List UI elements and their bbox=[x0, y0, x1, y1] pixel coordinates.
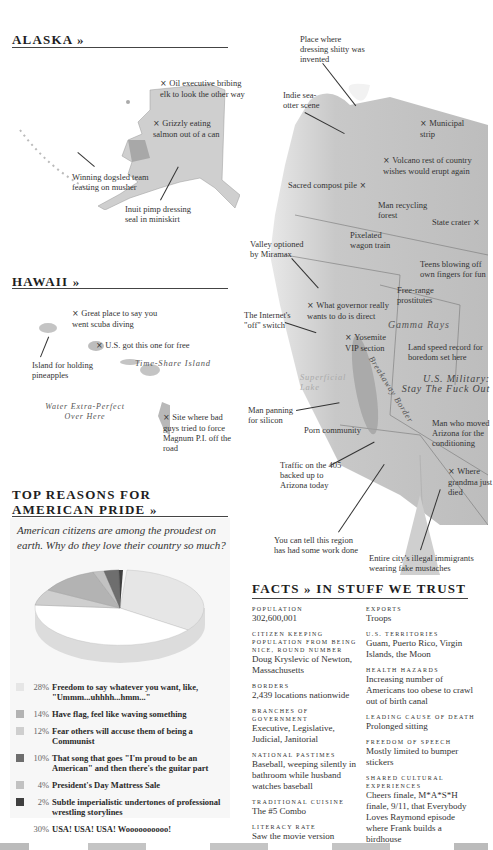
map-label-mustaches: Entire city's illegal immigrants wearing… bbox=[369, 553, 479, 573]
legend-item: 30% USA! USA! USA! Woooooooooo! bbox=[16, 824, 230, 834]
alaska-label-grizzly: × Grizzly eating salmon out of a can bbox=[153, 118, 233, 139]
pride-title-line1: TOP REASONS FOR bbox=[12, 487, 158, 502]
fact-value: Guam, Puerto Rico, Virgin Islands, the M… bbox=[366, 638, 476, 660]
map-label-dressing: Place where dressing shitty was invented bbox=[300, 34, 370, 64]
fact-value: Cheers finale, M*A*S*H finale, 9/11, tha… bbox=[366, 790, 476, 845]
legend-item: 2% Subtle imperialistic undertones of pr… bbox=[16, 797, 230, 817]
map-label-teens: Teens blowing off own fingers for fun bbox=[420, 259, 490, 279]
fact-value: 302,600,001 bbox=[252, 613, 362, 624]
map-label-porn: Porn community bbox=[304, 425, 384, 435]
map-label-wagon: Pixelated wagon train bbox=[350, 230, 400, 250]
legend-swatch bbox=[16, 683, 24, 691]
hawaii-label-pineapples: Island for holding pineapples bbox=[32, 360, 102, 380]
fact-key: U.S. TERRITORIES bbox=[366, 630, 476, 638]
hawaii-italic-timeshare: Time-Share Island bbox=[135, 358, 245, 368]
map-label-work-done: You can tell this region has had some wo… bbox=[274, 535, 364, 555]
legend-item: 14% Have flag, feel like waving somethin… bbox=[16, 709, 230, 719]
legend-text: Subtle imperialistic undertones of profe… bbox=[52, 797, 230, 817]
map-label-internet: The Internet's "off" switch bbox=[244, 310, 304, 330]
fact-value: Increasing number of Americans too obese… bbox=[366, 674, 476, 707]
legend-text: Freedom to say whatever you want, like, … bbox=[52, 682, 230, 702]
page-edge-strip bbox=[0, 843, 488, 850]
legend-item: 28% Freedom to say whatever you want, li… bbox=[16, 682, 230, 702]
legend-text: USA! USA! USA! Woooooooooo! bbox=[52, 824, 171, 834]
fact-value: Mostly limited to bumper stickers bbox=[366, 746, 476, 768]
map-label-sea-otter: Indie sea-otter scene bbox=[283, 90, 323, 110]
map-label-yosemite: × Yosemite VIP section bbox=[345, 332, 400, 353]
fact-value: Troops bbox=[366, 613, 476, 624]
map-italic-gamma: Gamma Rays bbox=[388, 320, 468, 330]
alaska-label-oil: × Oil executive bribing elk to look the … bbox=[160, 78, 250, 99]
legend-text: President's Day Mattress Sale bbox=[52, 780, 160, 790]
map-label-compost: Sacred compost pile × bbox=[288, 180, 398, 191]
fact-value: Baseball, weeping silently in bathroom w… bbox=[252, 759, 362, 792]
legend-item: 4% President's Day Mattress Sale bbox=[16, 780, 230, 790]
fact-key: NATIONAL PASTIMES bbox=[252, 751, 362, 759]
map-label-arizona: Man who moved Arizona for the conditioni… bbox=[432, 418, 490, 448]
pride-rule bbox=[12, 516, 228, 517]
legend-item: 12% Fear others will accuse them of bein… bbox=[16, 726, 230, 746]
map-label-municipal: × Municipal strip bbox=[420, 118, 480, 139]
fact-key: FREEDOM OF SPEECH bbox=[366, 738, 476, 746]
legend-pct: 4% bbox=[29, 780, 49, 790]
fact-value: Doug Kryslevic of Newton, Massachusetts bbox=[252, 654, 362, 676]
hawaii-rule bbox=[12, 288, 228, 289]
pie-legend: 28% Freedom to say whatever you want, li… bbox=[16, 682, 230, 841]
fact-key: BORDERS bbox=[252, 682, 362, 690]
pride-title: TOP REASONS FOR AMERICAN PRIDE » bbox=[12, 487, 158, 517]
legend-swatch bbox=[16, 727, 24, 735]
alaska-label-inuit: Inuit pimp dressing seal in miniskirt bbox=[125, 204, 205, 224]
fact-key: POPULATION bbox=[252, 605, 362, 613]
map-italic-military: U.S. Military: Stay The Fuck Out bbox=[400, 374, 490, 394]
hawaii-label-scuba: × Great place to say you went scuba divi… bbox=[72, 308, 162, 329]
fact-key: TRADITIONAL CUISINE bbox=[252, 798, 362, 806]
hawaii-label-free: × U.S. got this one for free bbox=[96, 340, 206, 351]
map-label-prostitutes: Free-range prostitutes bbox=[397, 285, 457, 305]
pride-title-line2: AMERICAN PRIDE » bbox=[12, 502, 158, 517]
map-label-recycling: Man recycling forest bbox=[378, 200, 438, 220]
facts-title: FACTS » IN STUFF WE TRUST bbox=[252, 581, 466, 597]
legend-pct: 30% bbox=[29, 824, 49, 834]
fact-value: The #5 Combo bbox=[252, 806, 362, 817]
legend-swatch bbox=[16, 781, 24, 789]
map-label-silicon: Man panning for silicon bbox=[248, 405, 303, 425]
fact-value: Executive, Legislative, Judicial, Janito… bbox=[252, 723, 362, 745]
hawaii-label-magnum: × Site where bad guys tried to force Mag… bbox=[163, 412, 233, 453]
hawaii-italic-water: Water Extra-Perfect Over Here bbox=[45, 402, 125, 422]
map-italic-superficial-lake: Superficial Lake bbox=[300, 372, 340, 392]
fact-key: LITERACY RATE bbox=[252, 823, 362, 831]
map-label-miramax: Valley optioned by Miramax bbox=[250, 239, 310, 259]
facts-left-column: POPULATION 302,600,001 CITIZEN KEEPING P… bbox=[252, 605, 362, 848]
fact-key: CITIZEN KEEPING POPULATION FROM BEING NI… bbox=[252, 630, 362, 654]
legend-swatch bbox=[16, 710, 24, 718]
map-label-governor: × What governor really wants to do is di… bbox=[307, 300, 397, 321]
map-label-grandma: × Where grandma just died bbox=[448, 466, 493, 497]
legend-text: Have flag, feel like waving something bbox=[52, 709, 187, 719]
alaska-title: ALASKA » bbox=[12, 32, 85, 48]
facts-right-column: EXPORTS Troops U.S. TERRITORIES Guam, Pu… bbox=[366, 605, 476, 850]
map-label-state-crater: State crater × bbox=[432, 217, 492, 228]
legend-pct: 14% bbox=[29, 709, 49, 719]
fact-value: Prolonged sitting bbox=[366, 721, 476, 732]
legend-pct: 10% bbox=[29, 753, 49, 763]
fact-value: Saw the movie version bbox=[252, 831, 362, 842]
alaska-rule bbox=[12, 47, 228, 48]
legend-swatch bbox=[16, 754, 24, 762]
legend-text: Fear others will accuse them of being a … bbox=[52, 726, 230, 746]
pride-intro: American citizens are among the proudest… bbox=[17, 523, 227, 553]
fact-value: 2,439 locations nationwide bbox=[252, 690, 362, 701]
map-label-volcano: × Volcano rest of country wishes would e… bbox=[383, 155, 493, 176]
facts-rule bbox=[252, 598, 468, 599]
fact-key: BRANCHES OF GOVERNMENT bbox=[252, 707, 362, 723]
alaska-label-dogsled: Winning dogsled team feasting on musher bbox=[72, 172, 152, 192]
legend-swatch bbox=[16, 825, 24, 833]
legend-pct: 2% bbox=[29, 797, 49, 807]
legend-swatch bbox=[16, 798, 24, 806]
legend-text: That song that goes "I'm proud to be an … bbox=[52, 753, 230, 773]
map-label-land-speed: Land speed record for boredom set here bbox=[408, 342, 488, 362]
pie-chart bbox=[30, 563, 210, 668]
legend-item: 10% That song that goes "I'm proud to be… bbox=[16, 753, 230, 773]
legend-pct: 12% bbox=[29, 726, 49, 736]
fact-key: SHARED CULTURAL EXPERIENCES bbox=[366, 774, 476, 790]
map-label-traffic: Traffic on the 405 backed up to Arizona … bbox=[280, 460, 350, 490]
